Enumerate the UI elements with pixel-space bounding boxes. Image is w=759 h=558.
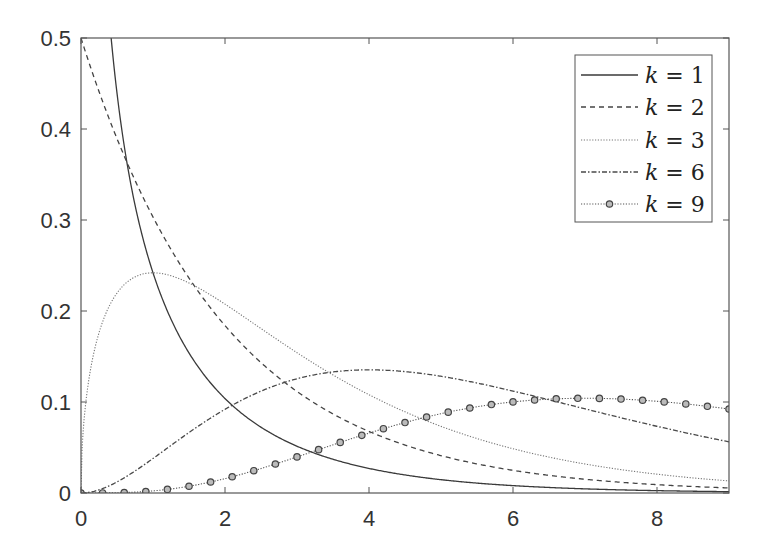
marker-circle	[423, 414, 429, 420]
legend-label-k6: k = 6	[645, 160, 705, 185]
marker-circle	[229, 474, 235, 480]
y-tick-label-0.4: 0.4	[40, 117, 71, 142]
chi-squared-chart: 0 2 4 6 8 0 0.1 0.2 0.3 0.4 0.5 k = 1 k …	[0, 0, 759, 558]
marker-circle	[402, 419, 408, 425]
marker-circle	[618, 396, 624, 402]
marker-circle	[294, 454, 300, 460]
marker-circle	[639, 397, 645, 403]
marker-circle	[531, 397, 537, 403]
marker-circle	[315, 446, 321, 452]
marker-circle	[661, 399, 667, 405]
marker-circle	[510, 399, 516, 405]
marker-circle	[337, 439, 343, 445]
x-tick-label-0: 0	[75, 506, 87, 531]
marker-circle	[164, 486, 170, 492]
marker-circle	[186, 483, 192, 489]
marker-circle	[488, 401, 494, 407]
legend-label-k9: k = 9	[645, 192, 705, 217]
y-tick-label-0.2: 0.2	[40, 299, 71, 324]
marker-circle	[683, 401, 689, 407]
marker-circle	[380, 426, 386, 432]
series-line-k3	[81, 273, 729, 493]
marker-circle	[251, 468, 257, 474]
y-tick-label-0.5: 0.5	[40, 26, 71, 51]
y-tick-label-0: 0	[59, 481, 71, 506]
legend-label-k2: k = 2	[645, 95, 705, 120]
x-tick-label-6: 6	[507, 506, 519, 531]
marker-circle	[575, 395, 581, 401]
y-tick-label-0.1: 0.1	[40, 390, 71, 415]
x-tick-label-8: 8	[651, 506, 663, 531]
marker-circle	[596, 395, 602, 401]
x-tick-label-2: 2	[219, 506, 231, 531]
marker-circle	[272, 461, 278, 467]
legend-label-k1: k = 1	[645, 63, 705, 88]
marker-circle	[143, 488, 149, 494]
marker-circle	[704, 403, 710, 409]
x-axis: 0 2 4 6 8	[75, 506, 663, 531]
y-axis: 0 0.1 0.2 0.3 0.4 0.5	[40, 26, 71, 506]
marker-circle	[467, 405, 473, 411]
legend: k = 1 k = 2 k = 3 k = 6 k = 9	[575, 55, 712, 222]
marker-circle	[553, 396, 559, 402]
legend-marker-circle	[606, 201, 612, 207]
marker-circle	[359, 432, 365, 438]
marker-circle	[207, 479, 213, 485]
y-tick-label-0.3: 0.3	[40, 208, 71, 233]
x-tick-label-4: 4	[363, 506, 375, 531]
legend-label-k3: k = 3	[645, 128, 705, 153]
marker-circle	[445, 409, 451, 415]
